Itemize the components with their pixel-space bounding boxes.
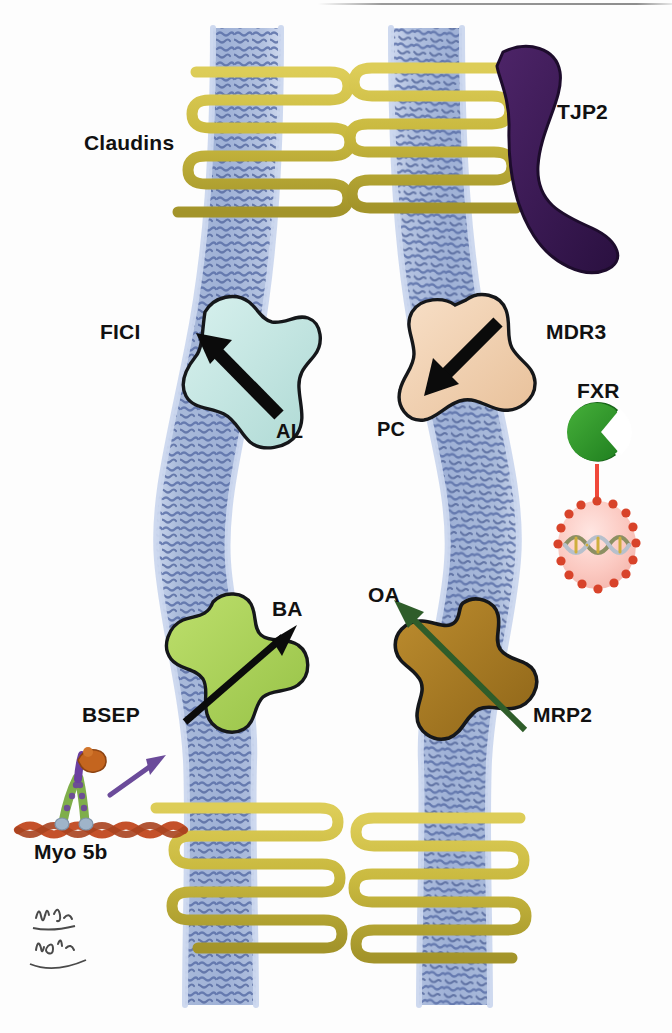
artist-signature bbox=[30, 910, 86, 968]
label-bsep: BSEP bbox=[82, 703, 140, 727]
label-fic1: FICI bbox=[100, 320, 140, 344]
myosin-5b-motor bbox=[55, 747, 106, 830]
label-fxr: FXR bbox=[577, 379, 620, 403]
dna-helix bbox=[565, 537, 629, 553]
tjp2-protein bbox=[497, 46, 618, 272]
fxr-receptor bbox=[567, 403, 632, 461]
label-mrp2: MRP2 bbox=[533, 703, 592, 727]
label-claudins: Claudins bbox=[84, 131, 174, 155]
myosin-transport-arrow bbox=[110, 755, 166, 795]
label-al: AL bbox=[276, 420, 303, 443]
label-ba: BA bbox=[272, 597, 303, 621]
nucleus bbox=[553, 496, 640, 593]
label-tjp2: TJP2 bbox=[557, 100, 608, 124]
figure-canvas: Claudins TJP2 FICI AL MDR3 PC FXR BA BSE… bbox=[0, 0, 672, 1033]
label-mdr3: MDR3 bbox=[546, 320, 606, 344]
actin-filament bbox=[18, 826, 184, 835]
mrp2-transporter bbox=[394, 599, 537, 739]
label-pc: PC bbox=[377, 418, 405, 441]
label-oa: OA bbox=[368, 583, 400, 607]
mdr3-transporter bbox=[399, 295, 535, 421]
label-myo5b: Myo 5b bbox=[34, 840, 108, 864]
